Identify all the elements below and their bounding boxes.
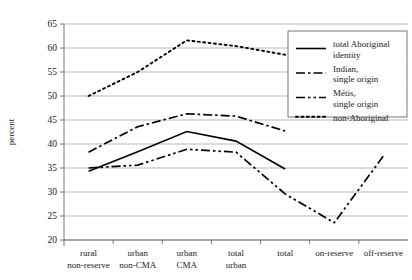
y-tick-label-25: 25 bbox=[48, 211, 58, 221]
x-axis-category-5: on-reserve bbox=[315, 248, 353, 258]
series-line-1 bbox=[89, 114, 286, 152]
series-line-2 bbox=[89, 149, 384, 222]
legend-label: Indian, bbox=[333, 64, 358, 74]
y-tick-label-55: 55 bbox=[48, 67, 58, 77]
x-axis-category-label: non-CMA bbox=[119, 260, 157, 270]
y-tick-label-40: 40 bbox=[48, 139, 58, 149]
y-tick-label-45: 45 bbox=[48, 115, 58, 125]
y-tick-label-50: 50 bbox=[48, 91, 58, 101]
x-axis-category-label: CMA bbox=[177, 260, 198, 270]
y-tick-label-30: 30 bbox=[48, 187, 58, 197]
x-axis-category-label: rural bbox=[80, 248, 97, 258]
x-axis-category-label: total bbox=[228, 248, 244, 258]
x-axis-category-label: total bbox=[277, 248, 293, 258]
x-axis-category-2: urbanCMA bbox=[177, 248, 198, 270]
y-tick-label-65: 65 bbox=[48, 19, 58, 29]
x-axis-category-1: urbannon-CMA bbox=[119, 248, 157, 270]
series-line-0 bbox=[89, 132, 286, 172]
series-line-3 bbox=[89, 40, 286, 96]
x-axis-category-0: ruralnon-reserve bbox=[67, 248, 109, 270]
x-axis-category-3: totalurban bbox=[226, 248, 247, 270]
legend-label: Métis, bbox=[333, 88, 356, 98]
legend-label: identity bbox=[333, 50, 361, 60]
chart-container: 20253035404550556065percentruralnon-rese… bbox=[0, 0, 412, 280]
line-chart: 20253035404550556065percentruralnon-rese… bbox=[0, 0, 412, 280]
x-axis-category-label: urban bbox=[226, 260, 247, 270]
x-axis-category-6: off-reserve bbox=[364, 248, 403, 258]
x-axis-category-label: urban bbox=[127, 248, 148, 258]
legend-label: non-Aboriginal bbox=[333, 113, 389, 123]
x-axis-category-label: urban bbox=[177, 248, 198, 258]
y-tick-label-60: 60 bbox=[48, 43, 58, 53]
y-tick-label-35: 35 bbox=[48, 163, 58, 173]
x-axis-category-label: on-reserve bbox=[315, 248, 353, 258]
legend-label: total Aboriginal bbox=[333, 39, 390, 49]
x-axis-category-label: off-reserve bbox=[364, 248, 403, 258]
x-axis-category-label: non-reserve bbox=[67, 260, 109, 270]
y-axis-title: percent bbox=[6, 118, 16, 145]
x-axis-category-4: total bbox=[277, 248, 293, 258]
legend-label: single origin bbox=[333, 99, 379, 109]
y-tick-label-20: 20 bbox=[48, 235, 58, 245]
legend-label: single origin bbox=[333, 74, 379, 84]
